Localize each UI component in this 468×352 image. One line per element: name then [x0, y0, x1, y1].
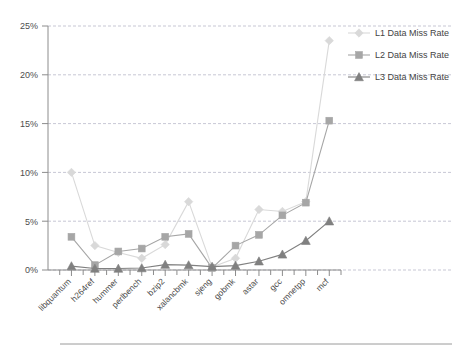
y-tick-label: 10% [20, 168, 38, 178]
data-point-marker [115, 248, 122, 255]
data-point-marker [279, 212, 286, 219]
chart-canvas: 0%5%10%15%20%25% libquantumh264refhummer… [0, 0, 468, 352]
data-point-marker [162, 233, 169, 240]
legend-marker [356, 52, 363, 59]
y-tick-label: 0% [25, 265, 38, 275]
data-point-marker [256, 231, 263, 238]
data-point-marker [326, 117, 333, 124]
data-point-marker [302, 199, 309, 206]
data-point-marker [185, 230, 192, 237]
miss-rate-line-chart: 0%5%10%15%20%25% libquantumh264refhummer… [0, 0, 468, 352]
y-tick-label: 15% [20, 119, 38, 129]
data-point-marker [68, 233, 75, 240]
legend-label: L3 Data Miss Rate [375, 72, 449, 82]
y-tick-label: 5% [25, 217, 38, 227]
legend-label: L2 Data Miss Rate [375, 50, 449, 60]
legend-label: L1 Data Miss Rate [375, 28, 449, 38]
data-point-marker [138, 245, 145, 252]
y-tick-label: 20% [20, 70, 38, 80]
data-point-marker [232, 242, 239, 249]
y-tick-label: 25% [20, 21, 38, 31]
